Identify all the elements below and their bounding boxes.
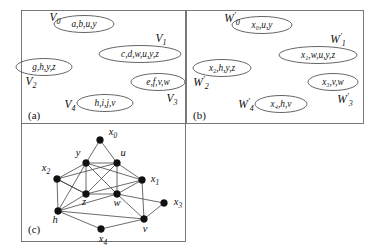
set-members-v4: h,i,j,v [95, 98, 117, 108]
graph-node-label-z: z [81, 196, 86, 207]
graph-node-x3 [161, 200, 168, 207]
set-members-v3: e,f,v,w [146, 77, 170, 87]
set-members-v2: g,h,y,z [32, 62, 56, 72]
panel-b-tag: (b) [193, 109, 206, 122]
set-members-w0: x₀,u,y [251, 20, 274, 30]
set-members-w1: x₁,w,u,y,z [300, 50, 335, 60]
panel-a: a,b,u,y V0 c,d,w,u,y,z V1 g,h,y,z V2 e,f… [16, 11, 186, 124]
set-members-w4: x₄,h,v [270, 99, 293, 109]
figure-container: a,b,u,y V0 c,d,w,u,y,z V1 g,h,y,z V2 e,f… [0, 0, 376, 252]
set-members-w3: x₃,v,w [321, 77, 344, 87]
graph-node-y [83, 160, 90, 167]
graph-node-v [141, 216, 148, 223]
graph-node-label-w: w [113, 197, 120, 208]
graph-node-x2 [54, 176, 61, 183]
set-members-v0: a,b,u,y [71, 19, 97, 29]
panel-c-tag: (c) [28, 223, 41, 236]
panel-c-border [22, 124, 186, 242]
panel-c: x0yux2x1zwx3hvx4 (c) [22, 124, 186, 248]
graph-node-u [114, 160, 121, 167]
set-members-w2: x₂,h,y,z [208, 63, 236, 73]
graph-node-x1 [139, 177, 146, 184]
graph-node-label-y: y [75, 147, 81, 158]
set-members-v1: c,d,w,u,y,z [121, 49, 159, 59]
graph-node-x0 [97, 137, 104, 144]
graph-node-x4 [98, 226, 105, 233]
figure-svg: a,b,u,y V0 c,d,w,u,y,z V1 g,h,y,z V2 e,f… [0, 0, 376, 252]
panel-b: x₀,u,y W'0 x₁,w,u,y,z W'1 x₂,h,y,z W'2 x… [187, 11, 364, 124]
panel-a-tag: (a) [28, 109, 41, 122]
graph-node-label-v: v [143, 223, 148, 234]
graph-node-label-h: h [52, 214, 57, 225]
graph-node-label-u: u [120, 147, 125, 158]
